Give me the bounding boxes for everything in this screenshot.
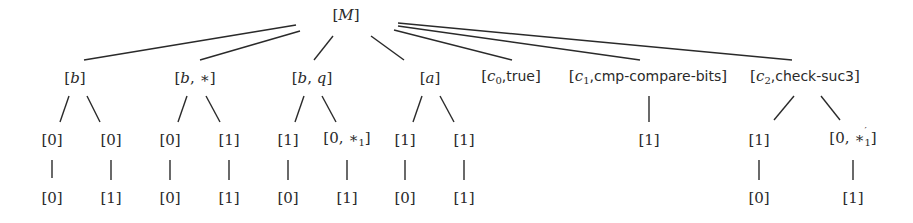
bracket: ] [354,6,360,24]
tree-leaf: [0, ∗1] [323,129,370,152]
star-symbol: ∗ [854,129,864,147]
tree-leaf: [0] [41,189,62,207]
tree-node-b: [b] [64,69,85,87]
star-symbol: ∗ [348,129,358,147]
bracket: ] [871,129,877,147]
bracket: ] [535,67,541,85]
node-text: ,check-suc3 [771,68,854,84]
bracket: ] [210,69,216,87]
edge-b-l [60,96,69,122]
separator: , [307,69,317,87]
tree-node-a: [a] [420,69,441,87]
node-var: a [426,69,435,87]
tree-leaf: [0] [748,189,769,207]
edge-root-c0 [394,30,512,60]
tree-leaf: [1] [748,131,769,149]
edge-c2-r [821,96,840,120]
tree-node-c2: [c2,check-suc3] [750,67,860,90]
bracket: ] [365,129,371,147]
node-text: ,true [502,68,535,84]
star-symbol: ∗ [199,69,209,87]
tree-leaf: [1] [842,189,863,207]
tree-node-b-star: [b, ∗] [174,69,215,87]
tree-leaf: [0, ∗1′] [829,129,876,152]
bracket: ] [434,69,440,87]
tree-leaf: [0] [277,189,298,207]
prime-mark: ′ [864,122,866,140]
bracket: ] [721,67,727,85]
tree-leaf: [1] [453,189,474,207]
separator: , [190,69,200,87]
bracket: ] [326,69,332,87]
tree-leaf: [0] [100,131,121,149]
edge-root-c2 [398,23,792,60]
edge-bs-r [206,96,220,122]
tree-node-c0: [c0,true] [481,67,541,90]
tree-leaf: [0] [159,131,180,149]
tree-leaf: [1] [100,189,121,207]
tree-node-root: [M] [332,6,359,24]
tree-leaf: [0] [41,131,62,149]
node-var: c [575,67,583,85]
node-var: q [317,69,327,87]
edge-a-l [413,96,422,122]
tree-node-c1: [c1,cmp-compare-bits] [569,67,727,90]
leaf-open: [0, [829,129,854,147]
node-text: ,cmp-compare-bits [590,68,722,84]
tree-leaf: [0] [394,189,415,207]
edge-bs-l [178,96,187,122]
edge-a-r [440,96,454,122]
tree-node-b-q: [b, q] [292,69,332,87]
tree-leaf: [1] [218,131,239,149]
bracket: ] [80,69,86,87]
tree-leaf: [0] [159,189,180,207]
edge-c2-l [774,96,794,120]
edge-root-b-star [200,31,300,60]
tree-leaf: [1] [336,189,357,207]
edge-root-b [84,25,296,60]
node-var: c [756,67,764,85]
tree-leaf: [1] [277,131,298,149]
leaf-open: [0, [323,129,348,147]
tree-leaf: [1] [453,131,474,149]
edge-root-b-q [314,36,333,60]
edge-bq-l [295,96,304,122]
tree-leaf: [1] [394,131,415,149]
node-var: c [487,67,495,85]
edge-b-r [87,96,100,122]
edge-bq-r [322,96,336,122]
bracket: ] [854,67,860,85]
tree-leaf: [1] [218,189,239,207]
node-var: M [338,6,353,24]
edge-root-a [371,36,404,60]
tree-leaf: [1] [638,131,659,149]
